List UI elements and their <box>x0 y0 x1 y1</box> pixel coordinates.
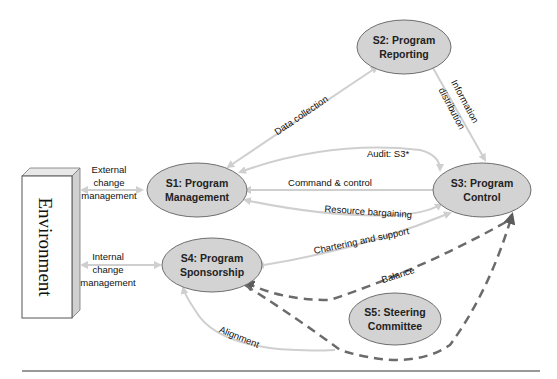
environment-label: Environment <box>35 197 56 297</box>
label-audit: Audit: S3* <box>367 148 410 159</box>
node-s3-line2: Control <box>463 191 500 203</box>
node-s5-line2: Committee <box>368 320 422 332</box>
label-internal-2: change <box>92 264 123 275</box>
environment-box: Environment <box>22 168 80 318</box>
label-external-2: change <box>93 177 124 188</box>
node-s3: S3: Program Control <box>433 163 531 217</box>
node-s1-line1: S1: Program <box>166 177 228 189</box>
node-s2-line1: S2: Program <box>373 34 435 46</box>
label-external-3: management <box>81 190 137 201</box>
node-s1: S1: Program Management <box>147 163 247 217</box>
node-s5-line1: S5: Steering <box>364 306 425 318</box>
label-resource-bargaining: Resource bargaining <box>324 203 412 220</box>
label-command-control: Command & control <box>288 177 372 188</box>
node-s2-line2: Reporting <box>379 48 429 60</box>
node-s4-line2: Sponsorship <box>180 266 244 278</box>
label-internal-1: Internal <box>92 251 124 262</box>
node-s4: S4: Program Sponsorship <box>162 238 262 292</box>
label-alignment: Alignment <box>218 324 262 350</box>
audit-arrow <box>240 148 440 172</box>
label-balance: Balance <box>380 264 416 285</box>
label-data-collection: Data collection <box>272 93 330 137</box>
node-s2: S2: Program Reporting <box>357 20 451 74</box>
vsm-diagram: Environment S2: Program Reporting S1: Pr… <box>0 0 557 379</box>
node-s4-line1: S4: Program <box>181 252 243 264</box>
node-s5: S5: Steering Committee <box>349 293 441 345</box>
label-internal-3: management <box>80 277 136 288</box>
label-chartering-support: Chartering and support <box>313 225 411 256</box>
label-external-1: External <box>92 164 127 175</box>
node-s1-line2: Management <box>165 191 230 203</box>
node-s3-line1: S3: Program <box>451 177 513 189</box>
